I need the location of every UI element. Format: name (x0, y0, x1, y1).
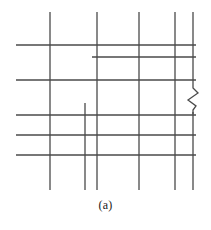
line-network-diagram (0, 0, 211, 200)
diagram-stroke-group (16, 12, 201, 190)
figure-caption: (a) (0, 198, 211, 213)
figure-container: (a) (0, 0, 211, 230)
